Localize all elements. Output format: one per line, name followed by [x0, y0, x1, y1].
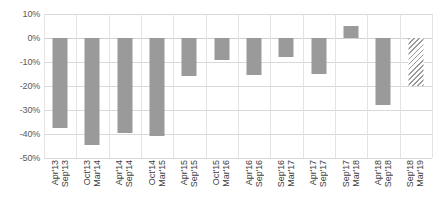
x-axis-tick-line: Mar'19: [416, 160, 425, 187]
bar[interactable]: [150, 38, 165, 136]
x-axis-tick-line: Mar'15: [158, 160, 167, 187]
x-axis-tick-line: Sep'17: [319, 160, 328, 187]
y-axis-tick-label: -20%: [2, 81, 40, 91]
bar-slot: [238, 14, 270, 158]
bar-chart: 10%0%-10%-20%-30%-40%-50% Apr'13Sep'13Oc…: [0, 0, 436, 212]
bar[interactable]: [311, 38, 326, 74]
x-axis-tick-label: Oct'14Mar'15: [141, 160, 173, 212]
x-axis-tick-line: Sep'16: [277, 160, 286, 187]
x-axis-tick-line: Apr'14: [115, 160, 124, 185]
x-axis-tick-line: Sep'18: [406, 160, 415, 187]
x-axis-tick-label: Oct'13Mar'14: [76, 160, 108, 212]
bar-slot: [141, 14, 173, 158]
x-axis-tick-line: Mar'17: [287, 160, 296, 187]
vertical-gridline: [432, 14, 433, 158]
x-axis-tick-line: Sep'18: [384, 160, 393, 187]
bar[interactable]: [117, 38, 132, 133]
x-axis-tick-line: Sep'16: [255, 160, 264, 187]
x-axis-tick-line: Mar'18: [352, 160, 361, 187]
x-axis-tick-label: Sep'17Mar'18: [335, 160, 367, 212]
bar-slot: [173, 14, 205, 158]
bar-slot: [367, 14, 399, 158]
x-axis-tick-label: Apr'13Sep'13: [44, 160, 76, 212]
y-axis-tick-label: 0%: [2, 33, 40, 43]
x-axis-tick-line: Sep'15: [190, 160, 199, 187]
y-axis-tick-label: -30%: [2, 105, 40, 115]
bar[interactable]: [85, 38, 100, 145]
x-axis-tick-label: Sep'18Mar'19: [400, 160, 432, 212]
x-axis-tick-label: Sep'16Mar'17: [270, 160, 302, 212]
bar[interactable]: [344, 26, 359, 38]
x-axis-tick-label: Apr'17Sep'17: [303, 160, 335, 212]
bar[interactable]: [279, 38, 294, 57]
x-axis-tick-line: Apr'16: [245, 160, 254, 185]
bar-slot: [76, 14, 108, 158]
x-axis-tick-line: Apr'13: [51, 160, 60, 185]
x-axis-tick-line: Sep'13: [61, 160, 70, 187]
bar-slot: [44, 14, 76, 158]
bar-slot: [303, 14, 335, 158]
x-axis-tick-label: Apr'15Sep'15: [173, 160, 205, 212]
x-axis-tick-line: Oct'15: [212, 160, 221, 185]
y-axis-tick-label: -40%: [2, 129, 40, 139]
bar[interactable]: [247, 38, 262, 75]
x-axis-tick-line: Oct'14: [148, 160, 157, 185]
y-axis-tick-label: -10%: [2, 57, 40, 67]
y-axis: 10%0%-10%-20%-30%-40%-50%: [0, 14, 40, 158]
bar-slot: [400, 14, 432, 158]
gridline: [44, 158, 432, 159]
x-axis-tick-line: Sep'14: [125, 160, 134, 187]
x-axis-tick-line: Apr'17: [309, 160, 318, 185]
x-axis-tick-line: Apr'18: [374, 160, 383, 185]
y-axis-tick-label: 10%: [2, 9, 40, 19]
x-axis-tick-label: Apr'16Sep'16: [238, 160, 270, 212]
bar-slot: [206, 14, 238, 158]
x-axis-tick-line: Oct'13: [83, 160, 92, 185]
bar-slot: [335, 14, 367, 158]
x-axis-tick-line: Mar'16: [222, 160, 231, 187]
x-axis-tick-label: Apr'14Sep'14: [109, 160, 141, 212]
x-axis-tick-line: Sep'17: [342, 160, 351, 187]
x-axis: Apr'13Sep'13Oct'13Mar'14Apr'14Sep'14Oct'…: [44, 160, 432, 212]
plot-area: [44, 14, 432, 158]
x-axis-tick-line: Apr'15: [180, 160, 189, 185]
x-axis-tick-line: Mar'14: [93, 160, 102, 187]
bar[interactable]: [182, 38, 197, 76]
y-axis-tick-label: -50%: [2, 153, 40, 163]
bar-slot: [270, 14, 302, 158]
bar[interactable]: [376, 38, 391, 105]
x-axis-tick-label: Oct'15Mar'16: [206, 160, 238, 212]
x-axis-tick-label: Apr'18Sep'18: [367, 160, 399, 212]
bar-forecast[interactable]: [408, 38, 423, 86]
bar[interactable]: [214, 38, 229, 60]
bar-slot: [109, 14, 141, 158]
bar[interactable]: [53, 38, 68, 128]
